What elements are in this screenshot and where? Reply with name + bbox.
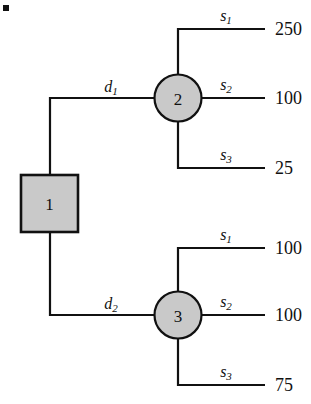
decision-tree-figure: 1 2 3 d1 d2 s1 s2 s3 s1 s2 [0, 0, 311, 404]
edge-decision-to-node2 [50, 98, 156, 174]
payoff-node3-s3: 75 [275, 375, 293, 395]
branch-label-node3-s3-subscript: 3 [225, 370, 232, 382]
branch-label-node3-s3: s3 [220, 363, 232, 382]
edge-decision-to-node3 [50, 232, 156, 315]
branch-label-node2-s3-subscript: 3 [225, 153, 232, 165]
payoff-node2-s1: 250 [275, 19, 302, 39]
corner-artifact-mark [3, 5, 9, 11]
payoff-node3-s1: 100 [275, 238, 302, 258]
decision-node-1-label: 1 [45, 195, 54, 214]
branch-label-node2-s2-subscript: 2 [226, 83, 232, 95]
branch-label-node3-s1: s1 [220, 226, 232, 245]
branch-label-node3-s2-subscript: 2 [226, 300, 232, 312]
branch-label-node2-s2: s2 [220, 76, 232, 95]
chance-node-3-label: 3 [174, 307, 183, 326]
branch-label-d2: d2 [104, 295, 118, 314]
branch-label-node2-s1-subscript: 1 [226, 14, 232, 26]
chance-node-2-label: 2 [174, 90, 183, 109]
branch-label-d1: d1 [104, 78, 118, 97]
branch-label-node2-s1: s1 [220, 7, 232, 26]
branch-label-d2-subscript: 2 [112, 302, 118, 314]
payoff-node3-s2: 100 [275, 305, 302, 325]
edge-node3-s1 [178, 248, 265, 292]
payoff-node2-s3: 25 [275, 158, 293, 178]
edge-node2-s1 [178, 29, 265, 75]
branch-label-d1-subscript: 1 [112, 85, 118, 97]
payoff-node2-s2: 100 [275, 88, 302, 108]
decision-tree-canvas: 1 2 3 d1 d2 s1 s2 s3 s1 s2 [0, 0, 311, 404]
branch-label-node3-s2: s2 [220, 293, 232, 312]
branch-label-node3-s1-subscript: 1 [226, 233, 232, 245]
branch-label-node2-s3: s3 [220, 146, 232, 165]
